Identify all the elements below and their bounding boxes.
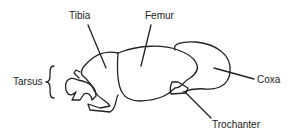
- coxa-label: Coxa: [257, 75, 280, 85]
- tarsus-label: Tarsus: [13, 77, 42, 87]
- femur-leader: [141, 25, 151, 66]
- trochanter-label: Trochanter: [212, 120, 260, 130]
- coxa-leader: [214, 68, 254, 79]
- tarsus-brace: [46, 66, 54, 98]
- trochanter-leader: [185, 92, 211, 118]
- femur-label: Femur: [145, 11, 174, 21]
- tibia-label: Tibia: [69, 11, 90, 21]
- tibia-leader: [88, 25, 106, 68]
- tarsus-shape: [66, 70, 96, 100]
